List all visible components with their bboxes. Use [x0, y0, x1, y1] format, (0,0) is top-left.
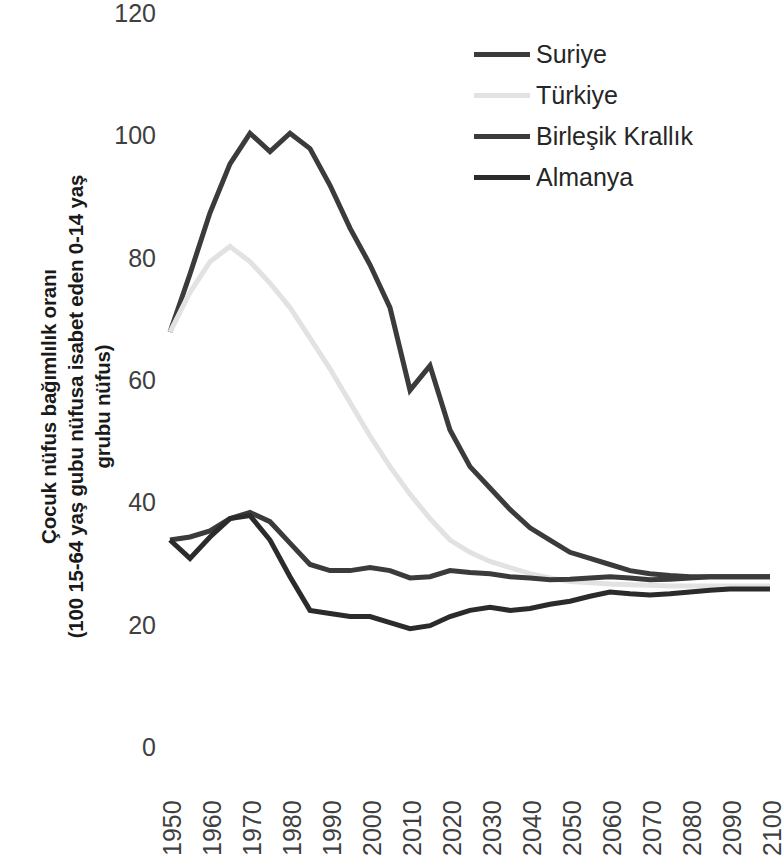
- series-line-türkiye: [170, 246, 770, 585]
- series-line-birleşik-krallık: [170, 513, 770, 580]
- series-line-suriye: [170, 133, 770, 576]
